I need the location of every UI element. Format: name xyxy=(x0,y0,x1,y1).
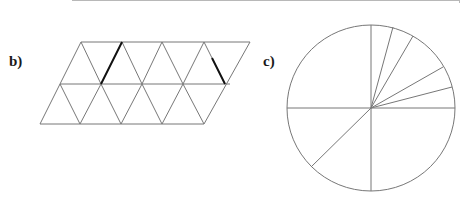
triangle-tessellation xyxy=(40,42,250,124)
sector-circle xyxy=(287,25,455,191)
bold-edges xyxy=(101,42,225,84)
figure-canvas xyxy=(0,0,464,199)
